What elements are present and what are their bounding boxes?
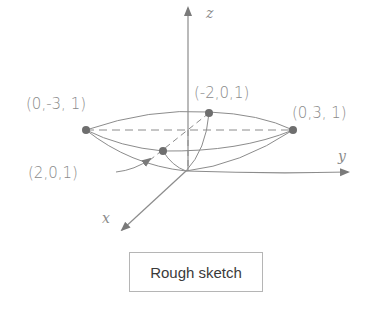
point-left — [82, 126, 90, 134]
point-back — [205, 109, 213, 117]
hidden-x-line — [150, 113, 209, 160]
pointer-arrow — [116, 159, 150, 172]
label-right-point: (0,3, 1) — [292, 104, 347, 122]
label-back-point: (-2,0,1) — [194, 84, 249, 102]
label-left-point: (0,-3, 1) — [26, 95, 86, 113]
point-front — [159, 147, 167, 155]
rim-back — [86, 111, 293, 130]
z-axis-label: z — [205, 5, 214, 21]
caption-text: Rough sketch — [150, 264, 242, 281]
point-right — [289, 126, 297, 134]
label-front-point: (2,0,1) — [28, 164, 78, 182]
x-axis — [122, 171, 186, 230]
y-axis-label: y — [337, 148, 347, 164]
trace-left — [86, 130, 186, 171]
caption-box: Rough sketch — [129, 252, 263, 292]
x-axis-label: x — [102, 210, 110, 226]
y-axis — [186, 171, 348, 173]
